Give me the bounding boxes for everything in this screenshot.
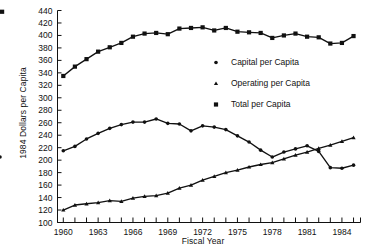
data-point-circle xyxy=(214,61,218,65)
data-point-triangle xyxy=(351,136,355,140)
x-axis-tick-label: 1984 xyxy=(332,227,351,237)
series-triangle xyxy=(61,136,355,212)
x-axis-tick-label: 1963 xyxy=(89,227,108,237)
data-series-group xyxy=(0,10,356,212)
data-point-circle xyxy=(340,166,344,170)
data-point-circle xyxy=(247,140,251,144)
data-point-square xyxy=(154,31,158,35)
data-point-square xyxy=(224,26,228,30)
data-point-square xyxy=(305,35,309,39)
y-axis-tick-label: 380 xyxy=(38,43,52,53)
y-axis-tick-label: 420 xyxy=(38,18,52,28)
data-point-circle xyxy=(73,145,77,149)
x-axis-title: Fiscal Year xyxy=(0,236,376,246)
data-point-circle xyxy=(0,155,2,159)
y-axis-tick-label: 440 xyxy=(38,6,52,16)
data-point-square xyxy=(166,32,170,36)
x-axis-tick-label: 1972 xyxy=(193,227,212,237)
data-point-square xyxy=(73,65,77,69)
data-point-square xyxy=(84,57,88,61)
data-point-circle xyxy=(143,120,147,124)
data-point-square xyxy=(317,35,321,39)
y-axis-tick-label: 180 xyxy=(38,168,52,178)
data-point-circle xyxy=(178,122,182,126)
data-point-square xyxy=(142,31,146,35)
data-point-circle xyxy=(259,148,263,152)
data-point-square xyxy=(108,45,112,49)
data-point-circle xyxy=(61,149,65,153)
series-line xyxy=(63,27,353,76)
data-point-square xyxy=(282,33,286,37)
chart-legend: Capital per CapitaOperating per CapitaTo… xyxy=(214,57,310,109)
data-point-circle xyxy=(270,155,274,159)
x-axis-tick-label: 1969 xyxy=(158,227,177,237)
line-chart-plot: 1001201401601802002202402602803003203403… xyxy=(0,0,376,252)
y-axis-tick-label: 400 xyxy=(38,30,52,40)
y-axis-tick-label: 200 xyxy=(38,155,52,165)
series-square xyxy=(0,10,356,78)
data-point-circle xyxy=(212,125,216,129)
y-axis-tick-label: 160 xyxy=(38,180,52,190)
data-point-circle xyxy=(236,134,240,138)
y-axis-tick-label: 240 xyxy=(38,130,52,140)
y-axis-tick-label: 120 xyxy=(38,205,52,215)
data-point-circle xyxy=(294,147,298,151)
x-axis-tick-label: 1981 xyxy=(298,227,317,237)
data-point-square xyxy=(201,25,205,29)
data-point-circle xyxy=(131,120,135,124)
y-axis-tick-label: 340 xyxy=(38,68,52,78)
x-axis-tick-label: 1960 xyxy=(54,227,73,237)
data-point-square xyxy=(340,41,344,45)
data-point-square xyxy=(259,31,263,35)
y-axis: 1001201401601802002202402602803003203403… xyxy=(38,6,61,228)
data-point-square xyxy=(235,30,239,34)
y-axis-tick-label: 280 xyxy=(38,105,52,115)
data-point-circle xyxy=(329,166,333,170)
legend-item: Operating per Capita xyxy=(214,78,310,88)
data-point-circle xyxy=(189,129,193,133)
x-axis-tick-label: 1978 xyxy=(263,227,282,237)
series-circle xyxy=(0,117,355,170)
data-point-circle xyxy=(201,124,205,128)
x-axis-title-text: Fiscal Year xyxy=(152,236,225,246)
series-line xyxy=(63,119,353,168)
data-point-triangle xyxy=(214,81,218,85)
data-point-square xyxy=(328,41,332,45)
x-axis-tick-label: 1975 xyxy=(228,227,247,237)
y-axis-tick-label: 300 xyxy=(38,93,52,103)
data-point-circle xyxy=(224,128,228,132)
data-point-circle xyxy=(352,163,356,167)
data-point-circle xyxy=(96,132,100,136)
chart-container: 1984 Dollars per Capita Fiscal Year 1001… xyxy=(0,0,376,252)
data-point-square xyxy=(177,26,181,30)
data-point-circle xyxy=(305,144,309,148)
data-point-circle xyxy=(166,122,170,126)
data-point-square xyxy=(247,30,251,34)
data-point-square xyxy=(131,35,135,39)
data-point-square xyxy=(212,28,216,32)
data-point-square xyxy=(61,74,65,78)
data-point-square xyxy=(189,26,193,30)
series-line xyxy=(63,138,353,210)
legend-item: Total per Capita xyxy=(214,99,291,109)
data-point-square xyxy=(293,31,297,35)
data-point-square xyxy=(351,34,355,38)
data-point-circle xyxy=(108,127,112,131)
y-axis-title: 1984 Dollars per Capita xyxy=(18,38,28,188)
y-axis-tick-label: 140 xyxy=(38,193,52,203)
y-axis-tick-label: 260 xyxy=(38,118,52,128)
data-point-circle xyxy=(282,150,286,154)
data-point-circle xyxy=(154,117,158,121)
legend-item-label: Operating per Capita xyxy=(231,78,310,88)
data-point-square xyxy=(214,102,218,106)
data-point-square xyxy=(270,36,274,40)
legend-item-label: Total per Capita xyxy=(231,99,291,109)
x-axis-tick-label: 1966 xyxy=(123,227,142,237)
legend-item: Capital per Capita xyxy=(214,57,299,67)
data-point-circle xyxy=(120,123,124,127)
y-axis-tick-label: 320 xyxy=(38,80,52,90)
x-axis: 196019631966196919721975197819811984 xyxy=(54,218,361,237)
data-point-square xyxy=(119,41,123,45)
y-axis-tick-label: 360 xyxy=(38,55,52,65)
data-point-circle xyxy=(317,150,321,154)
